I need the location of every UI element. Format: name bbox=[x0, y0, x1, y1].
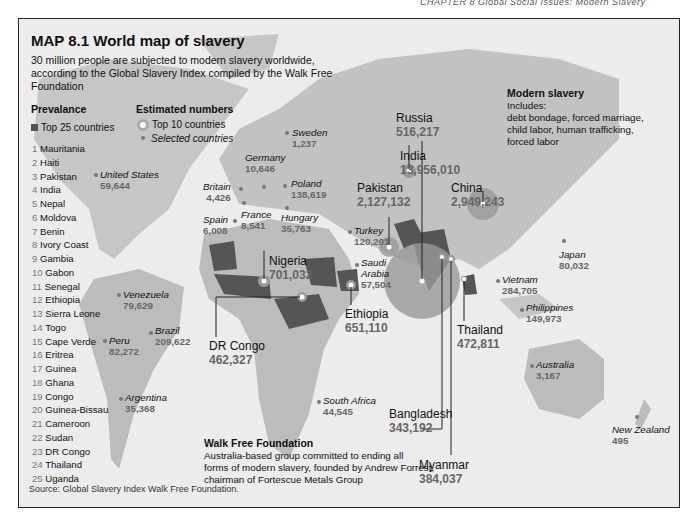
label-india: India13,956,010 bbox=[400, 149, 460, 177]
label-china: China2,949,243 bbox=[451, 181, 504, 209]
label-saudi-arabia: SaudiArabia57,504 bbox=[361, 257, 391, 290]
label-france: France8,541 bbox=[241, 209, 272, 231]
rank-item: 18 Ghana bbox=[32, 376, 108, 390]
label-bangladesh: Bangladesh343,192 bbox=[389, 407, 452, 435]
label-hungary: Hungary35,763 bbox=[281, 212, 318, 234]
dot-icon bbox=[141, 136, 145, 140]
dot-icon bbox=[94, 173, 98, 177]
dot-icon bbox=[562, 239, 566, 243]
label-vietnam: Vietnam284,705 bbox=[502, 274, 538, 296]
label-new-zealand: New Zealand495 bbox=[612, 424, 670, 446]
prevalence-heading: Prevalance bbox=[31, 103, 86, 115]
rank-item: 21 Cameroon bbox=[32, 417, 108, 431]
rank-item: 10 Gabon bbox=[32, 266, 108, 280]
rank-item: 20 Guinea-Bissau bbox=[32, 403, 108, 417]
modern-slavery-heading: Modern slavery bbox=[507, 87, 584, 99]
label-spain: Spain6,008 bbox=[203, 214, 228, 236]
dot-icon bbox=[285, 206, 289, 210]
dot-icon bbox=[285, 131, 289, 135]
label-britain: Britain4,426 bbox=[203, 181, 231, 203]
label-brazil: Brazil209,622 bbox=[155, 325, 190, 347]
rank-item: 14 Togo bbox=[32, 321, 108, 335]
rank-item: 19 Congo bbox=[32, 390, 108, 404]
walk-free-heading: Walk Free Foundation bbox=[204, 437, 313, 449]
dot-icon bbox=[117, 293, 121, 297]
dot-icon bbox=[355, 263, 359, 267]
dot-icon bbox=[239, 187, 243, 191]
prevalence-ranking-list: 1 Mauritania 2 Haiti 3 Pakistan 4 India … bbox=[32, 142, 108, 486]
rank-item: 17 Guinea bbox=[32, 362, 108, 376]
ring-icon bbox=[137, 119, 149, 131]
rank-item: 12 Ethiopia bbox=[32, 293, 108, 307]
label-united-states: United States59,644 bbox=[100, 169, 159, 191]
dot-icon bbox=[262, 185, 266, 189]
walk-free-box: Walk Free Foundation Australia-based gro… bbox=[204, 437, 434, 486]
dot-icon bbox=[530, 364, 534, 368]
label-russia: Russia516,217 bbox=[396, 111, 439, 139]
label-pakistan: Pakistan2,127,132 bbox=[357, 181, 410, 209]
rank-item: 5 Nepal bbox=[32, 197, 108, 211]
rank-item: 16 Eritrea bbox=[32, 348, 108, 362]
map-title: MAP 8.1 World map of slavery bbox=[31, 32, 245, 49]
dot-icon bbox=[119, 397, 123, 401]
rank-item: 23 DR Congo bbox=[32, 445, 108, 459]
label-poland: Poland138,619 bbox=[291, 178, 326, 200]
rank-item: 11 Senegal bbox=[32, 280, 108, 294]
rank-item: 1 Mauritania bbox=[32, 142, 108, 156]
label-thailand: Thailand472,811 bbox=[457, 323, 503, 351]
rank-item: 9 Gambia bbox=[32, 252, 108, 266]
map-figure: MAP 8.1 World map of slavery 30 million … bbox=[18, 18, 680, 508]
dot-icon bbox=[103, 339, 107, 343]
label-south-africa: South Africa44,545 bbox=[323, 395, 376, 417]
dot-icon bbox=[348, 230, 352, 234]
rank-item: 15 Cape Verde bbox=[32, 335, 108, 349]
legend-selected: Selected countries bbox=[141, 133, 233, 144]
label-germany: Germany10,646 bbox=[245, 152, 285, 174]
dot-icon bbox=[496, 279, 500, 283]
map-subtitle: 30 million people are subjected to moder… bbox=[31, 54, 361, 93]
rank-item: 6 Moldova bbox=[32, 211, 108, 225]
running-head: CHAPTER 8 Global Social Issues: Modern S… bbox=[420, 0, 673, 10]
label-argentina: Argentina35,368 bbox=[125, 392, 167, 414]
rank-item: 4 India bbox=[32, 183, 108, 197]
label-dr-congo: DR Congo462,327 bbox=[209, 339, 265, 367]
dot-icon bbox=[317, 400, 321, 404]
rank-item: 13 Sierra Leone bbox=[32, 307, 108, 321]
label-peru: Peru82,272 bbox=[109, 335, 139, 357]
legend-top25: Top 25 countries bbox=[31, 122, 114, 133]
estimated-heading: Estimated numbers bbox=[136, 103, 233, 115]
label-philippines: Philippines149,973 bbox=[526, 302, 573, 324]
rank-item: 2 Haiti bbox=[32, 156, 108, 170]
dot-icon bbox=[242, 201, 246, 205]
rank-item: 8 Ivory Coast bbox=[32, 238, 108, 252]
label-ethiopia: Ethiopia651,110 bbox=[345, 307, 388, 335]
label-turkey: Turkey120,201 bbox=[354, 225, 389, 247]
dark-square-icon bbox=[31, 124, 38, 131]
label-australia: Australia3,167 bbox=[536, 359, 574, 381]
rank-item: 7 Benin bbox=[32, 225, 108, 239]
label-sweden: Sweden1,237 bbox=[292, 127, 327, 149]
label-venezuela: Venezuela79,629 bbox=[123, 289, 169, 311]
label-nigeria: Nigeria701,032 bbox=[269, 254, 312, 282]
modern-slavery-box: Modern slavery Includes: debt bondage, f… bbox=[507, 87, 644, 148]
rank-item: 24 Thailand bbox=[32, 458, 108, 472]
rank-item: 22 Sudan bbox=[32, 431, 108, 445]
dot-icon bbox=[635, 415, 639, 419]
dot-icon bbox=[520, 308, 524, 312]
dot-icon bbox=[283, 184, 287, 188]
dot-icon bbox=[233, 219, 237, 223]
dot-icon bbox=[149, 331, 153, 335]
source-note: Source: Global Slavery Index Walk Free F… bbox=[29, 484, 239, 494]
legend-top10: Top 10 countries bbox=[137, 119, 225, 131]
label-japan: Japan80,032 bbox=[559, 249, 589, 271]
